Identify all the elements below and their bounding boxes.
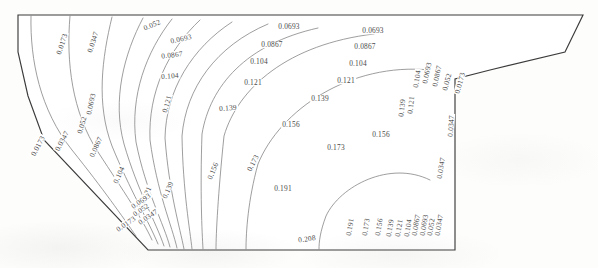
- contour-plot-figure: 0.01730.03470.0520.06930.06930.06930.086…: [0, 0, 598, 268]
- hull-boundary: [18, 15, 583, 250]
- contour-plot-canvas: [0, 0, 598, 268]
